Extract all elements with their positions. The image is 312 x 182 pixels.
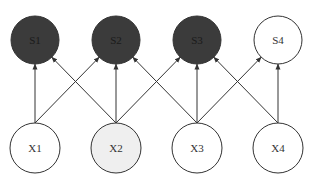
edge-x4-to-s3 <box>214 57 278 123</box>
node-s1: S1 <box>11 16 59 64</box>
node-x2: X2 <box>91 123 141 173</box>
node-x3: X3 <box>172 123 222 173</box>
node-label: X1 <box>28 142 41 154</box>
node-s4: S4 <box>254 16 302 64</box>
node-s3: S3 <box>173 16 221 64</box>
node-label: S3 <box>191 34 203 46</box>
node-label: S4 <box>272 34 284 46</box>
edge-x1-to-s2 <box>35 57 99 123</box>
edge-x3-to-s4 <box>197 57 261 123</box>
nodes-layer: S1S2S3S4X1X2X3X4 <box>10 16 303 173</box>
node-label: X3 <box>190 142 204 154</box>
node-label: X4 <box>271 142 285 154</box>
node-x1: X1 <box>10 123 60 173</box>
node-x4: X4 <box>253 123 303 173</box>
edge-x3-to-s2 <box>133 57 197 123</box>
node-s2: S2 <box>92 16 140 64</box>
edge-x2-to-s3 <box>116 57 180 123</box>
edges-layer <box>35 57 278 123</box>
node-label: S2 <box>110 34 122 46</box>
diagram-canvas: S1S2S3S4X1X2X3X4 <box>0 0 312 182</box>
edge-x2-to-s1 <box>52 57 116 123</box>
node-label: X2 <box>109 142 122 154</box>
node-label: S1 <box>29 34 41 46</box>
graphical-model-diagram: S1S2S3S4X1X2X3X4 <box>0 0 312 182</box>
